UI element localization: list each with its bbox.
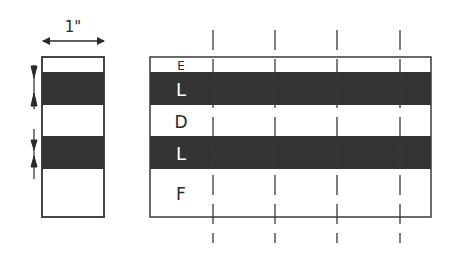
- arrow-down-icon: [31, 140, 37, 150]
- left-strip: [42, 57, 104, 217]
- row-label-l-top: L: [176, 79, 186, 100]
- row-label-e: E: [177, 59, 185, 73]
- row-label-f: F: [176, 184, 186, 204]
- thickness-marker-2: [31, 129, 37, 179]
- row-l-bottom: [150, 136, 431, 169]
- right-block: E L D L F: [150, 57, 431, 217]
- row-label-l-bottom: L: [176, 143, 186, 164]
- layered-strip-diagram: 1" E L D L F: [0, 0, 451, 257]
- width-label: 1": [65, 18, 81, 36]
- arrow-up-icon: [31, 93, 37, 106]
- arrow-up-icon: [31, 156, 37, 167]
- arrow-down-icon: [31, 66, 37, 78]
- left-dark-band-1: [42, 72, 104, 105]
- row-l-top: [150, 72, 431, 105]
- row-label-d: D: [174, 112, 187, 132]
- width-dimension: 1": [43, 18, 104, 41]
- thickness-marker-1: [31, 65, 37, 109]
- left-dark-band-2: [42, 136, 104, 169]
